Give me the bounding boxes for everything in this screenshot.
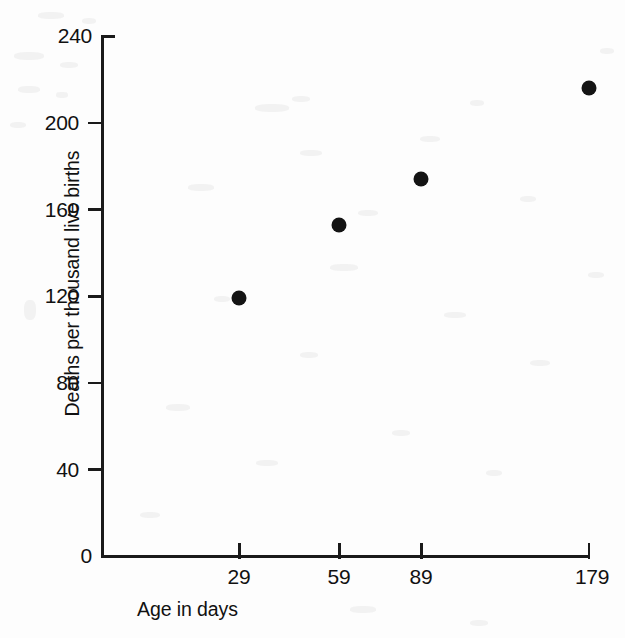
scatter-chart-figure: Deaths per thousand live births 240 200 …: [0, 0, 625, 638]
y-axis-tick-40: 40: [88, 468, 104, 471]
y-axis-tick-80: 80: [88, 382, 104, 385]
x-axis-title-wrap: Age in days: [0, 598, 625, 621]
x-axis-title: Age in days: [137, 598, 238, 621]
paper-speckle: [600, 48, 614, 54]
x-axis-line: [101, 555, 590, 558]
data-point: [414, 172, 429, 187]
y-axis-tick-120: 120: [88, 295, 104, 298]
y-axis-tick-0: 0: [101, 555, 115, 558]
y-axis-tick-label: 40: [56, 458, 79, 482]
x-axis-tick-29: [238, 543, 241, 559]
y-axis-tick-160: 160: [88, 208, 104, 211]
paper-speckle: [10, 122, 26, 128]
data-point: [232, 291, 247, 306]
y-axis-tick-label: 160: [45, 198, 79, 222]
x-axis-tick-89: [420, 543, 423, 559]
y-axis-tick-label: 240: [58, 24, 92, 48]
y-axis-tick-label: 0: [81, 544, 92, 568]
x-axis-tick-59: [338, 543, 341, 559]
y-axis-tick-240: 240: [101, 35, 115, 38]
x-axis-tick-179: [588, 543, 591, 559]
x-axis-tick-label: 59: [328, 565, 351, 589]
x-axis-tick-label: 89: [410, 565, 433, 589]
y-axis-tick-label: 80: [56, 371, 79, 395]
paper-speckle: [24, 300, 36, 320]
x-axis-tick-label: 179: [575, 565, 609, 589]
plot-area: 240 200 160 120 80 40 0 29 59 89 179: [101, 35, 590, 558]
paper-speckle: [14, 52, 44, 60]
y-axis-tick-label: 200: [45, 111, 79, 135]
paper-speckle: [38, 12, 64, 19]
paper-speckle: [60, 62, 78, 68]
data-point: [582, 81, 597, 96]
paper-speckle: [18, 86, 40, 93]
x-axis-tick-label: 29: [228, 565, 251, 589]
y-axis-tick-200: 200: [88, 122, 104, 125]
paper-speckle: [588, 272, 604, 278]
paper-speckle: [82, 18, 96, 24]
data-point: [332, 218, 347, 233]
y-axis-tick-label: 120: [45, 284, 79, 308]
